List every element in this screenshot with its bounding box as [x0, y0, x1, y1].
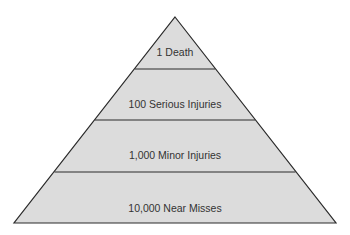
tier-label: 1,000 Minor Injuries [129, 149, 221, 161]
tier-4: 10,000 Near Misses [128, 202, 221, 214]
tier-1: 1 Death [157, 46, 194, 58]
tier-label: 1 Death [157, 46, 194, 58]
tier-label: 100 Serious Injuries [129, 98, 222, 110]
pyramid-svg: 1 Death 100 Serious Injuries 1,000 Minor… [0, 0, 350, 235]
tier-3: 1,000 Minor Injuries [129, 149, 221, 161]
pyramid-diagram: 1 Death 100 Serious Injuries 1,000 Minor… [0, 0, 350, 235]
tier-label: 10,000 Near Misses [128, 202, 221, 214]
tier-2: 100 Serious Injuries [129, 98, 222, 110]
